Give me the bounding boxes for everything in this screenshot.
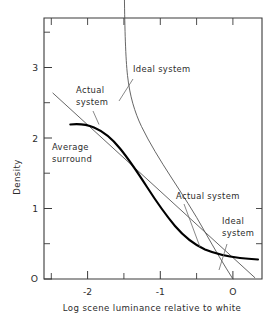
y-tick-label-3: 3	[32, 62, 38, 73]
x-axis-ticks-top	[51, 18, 233, 25]
x-tick-label-n2: -2	[83, 286, 92, 297]
annotation-label-actual-system-right: Actual system	[176, 191, 240, 201]
annotation-actual-system-left: Actual system	[76, 85, 108, 107]
annotation-leaders	[93, 79, 227, 270]
annotation-ideal-system-right: Ideal system	[222, 216, 254, 238]
x-tick-labels: -2 -1 O	[83, 286, 237, 297]
x-tick-label-0: O	[229, 286, 236, 297]
annotation-label-average-surround-line1: Average	[52, 142, 89, 152]
y-tick-label-1: 1	[32, 203, 38, 214]
y-tick-label-2: 2	[32, 133, 38, 144]
leader-ideal-system-top	[119, 79, 133, 101]
y-axis-ticks	[44, 32, 52, 279]
leader-actual-system-left	[93, 111, 99, 125]
y-axis-title: Density	[12, 159, 22, 194]
annotation-label-average-surround-line2: surround	[52, 154, 92, 164]
annotation-label-actual-system-left-line1: Actual	[76, 85, 104, 95]
x-tick-label-n1: -1	[156, 286, 165, 297]
x-axis-ticks	[51, 271, 233, 279]
annotation-label-ideal-system-top: Ideal system	[133, 64, 191, 74]
y-tick-label-0: O	[31, 273, 38, 284]
annotation-ideal-system-top: Ideal system	[133, 64, 191, 74]
y-tick-labels: O 1 2 3	[31, 62, 38, 284]
annotation-actual-system-right: Actual system	[176, 191, 240, 201]
annotation-label-ideal-system-right-line2: system	[222, 228, 254, 238]
figure-container: O 1 2 3 -2	[0, 0, 278, 329]
annotation-label-ideal-system-right-line1: Ideal	[222, 216, 244, 226]
annotation-average-surround: Average surround	[52, 142, 92, 164]
series-average-surround	[53, 93, 255, 278]
annotation-label-actual-system-left-line2: system	[76, 97, 108, 107]
leader-ideal-system-right	[219, 244, 227, 270]
series-ideal-system	[124, 0, 232, 279]
chart-svg: O 1 2 3 -2	[0, 0, 278, 329]
y-axis-ticks-right	[256, 209, 262, 244]
x-axis-title: Log scene luminance relative to white	[63, 303, 241, 313]
